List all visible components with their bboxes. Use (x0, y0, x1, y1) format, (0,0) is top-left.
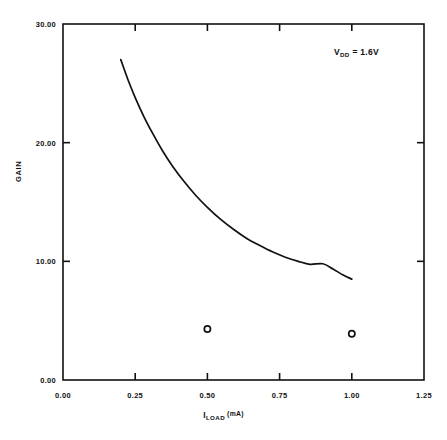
y-axis-tick-label: 0.00 (12, 376, 56, 385)
x-axis-tick-label: 0.75 (255, 391, 305, 400)
measured-point-marker (204, 326, 210, 332)
y-axis-ticks-right (417, 143, 424, 262)
supply-voltage-annotation: VDD = 1.6V (334, 47, 379, 58)
x-axis-tick-label: 0.50 (182, 391, 232, 400)
gain-vs-load-current-chart: 0.0010.0020.0030.00 0.000.250.500.751.00… (0, 0, 447, 440)
measured-point-markers (204, 326, 355, 337)
y-axis-title: GAIN (14, 161, 23, 182)
annotation-suffix: = 1.6V (350, 47, 379, 57)
y-axis-ticks-left (63, 143, 70, 262)
x-axis-ticks-bottom (135, 373, 352, 380)
x-axis-title-subscript: LOAD (206, 414, 225, 421)
y-axis-tick-label: 10.00 (12, 257, 56, 266)
x-axis-title: ILOAD(mA) (0, 410, 447, 421)
plot-area-svg (0, 0, 447, 440)
measured-point-marker (349, 331, 355, 337)
y-axis-tick-label: 30.00 (12, 20, 56, 29)
plot-frame (63, 24, 424, 380)
x-axis-tick-label: 1.25 (399, 391, 447, 400)
gain-curve-line (121, 60, 352, 280)
x-axis-ticks-top (135, 24, 352, 31)
x-axis-tick-label: 0.25 (110, 391, 160, 400)
x-axis-tick-label: 1.00 (327, 391, 377, 400)
y-axis-tick-label: 20.00 (12, 139, 56, 148)
x-axis-title-unit: (mA) (227, 410, 244, 417)
x-axis-tick-label: 0.00 (38, 391, 88, 400)
annotation-subscript: DD (340, 51, 350, 58)
